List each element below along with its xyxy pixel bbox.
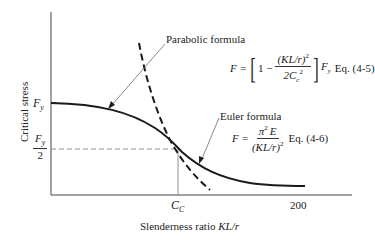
parabolic-den-sub: c — [296, 76, 299, 84]
parabolic-num-text: (KL/r) — [277, 53, 305, 65]
left-bracket: [ — [250, 53, 256, 83]
euler-formula-equation: F = π2E (KL/r)2 Eq. (4-6) — [232, 124, 328, 152]
x-axis-label-var: KL/r — [218, 220, 239, 232]
parabolic-formula-equation: F = [ 1 − (KL/r)2 2Cc2 ] Fy Eq. (4-5) — [230, 52, 375, 84]
parabolic-factor-sub: y — [328, 67, 331, 75]
fy-half-num-symbol: F — [35, 132, 42, 144]
euler-e: E — [270, 125, 277, 137]
parabolic-factor-symbol: F — [321, 60, 328, 72]
euler-dashed-curve — [139, 43, 210, 190]
parabolic-denominator: 2Cc2 — [283, 67, 302, 84]
cc-subscript: C — [179, 205, 184, 214]
fy-subscript: y — [40, 103, 44, 112]
cc-tick-label: CC — [171, 199, 184, 214]
y-axis-label: Critical stress — [18, 82, 30, 142]
fy-tick-label: Fy — [33, 97, 44, 112]
fy-half-numerator: Fy — [33, 133, 47, 149]
parabolic-fraction: (KL/r)2 2Cc2 — [275, 52, 311, 84]
x-max-tick-label: 200 — [290, 200, 307, 211]
fy-half-tick-label: Fy 2 — [33, 133, 47, 161]
euler-formula-label: Euler formula — [220, 111, 281, 122]
parabolic-factor: Fy — [321, 60, 331, 75]
fy-half-denominator: 2 — [37, 149, 43, 161]
cc-symbol: C — [171, 198, 179, 212]
euler-lhs: F = — [232, 132, 249, 144]
euler-arrowhead — [199, 156, 204, 164]
euler-den-sup: 2 — [280, 140, 284, 148]
parabolic-formula-label: Parabolic formula — [166, 34, 245, 45]
parabolic-den-sup: 2 — [299, 68, 303, 76]
parabolic-den-text: 2C — [283, 68, 296, 80]
parabolic-one-minus: 1 − — [258, 62, 272, 74]
x-axis-label: Slenderness ratio KL/r — [140, 221, 239, 232]
euler-den-text: (KL/r) — [252, 140, 280, 152]
euler-denominator: (KL/r)2 — [252, 139, 284, 153]
parabolic-pointer — [111, 44, 165, 106]
euler-fraction: π2E (KL/r)2 — [252, 124, 284, 152]
euler-eq-number: Eq. (4-6) — [289, 132, 329, 144]
euler-num-sup: 2 — [264, 124, 268, 132]
right-bracket: ] — [313, 53, 319, 83]
parabolic-num-sup: 2 — [306, 52, 310, 60]
euler-numerator: π2E — [257, 124, 279, 139]
parabolic-lhs: F = — [230, 62, 247, 74]
euler-pointer — [201, 118, 219, 161]
fy-half-num-sub: y — [42, 138, 46, 147]
x-axis-label-text: Slenderness ratio — [140, 220, 218, 232]
parabolic-numerator: (KL/r)2 — [275, 52, 311, 67]
parabolic-eq-number: Eq. (4-5) — [335, 62, 375, 74]
